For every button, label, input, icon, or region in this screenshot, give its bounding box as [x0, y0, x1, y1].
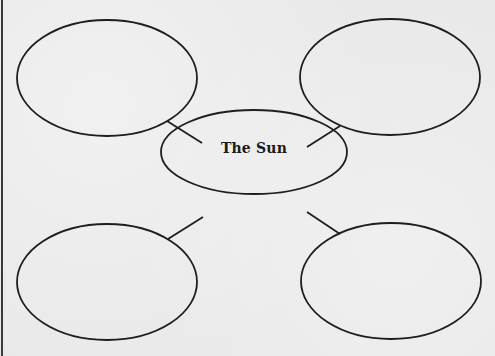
node-top-left-answer[interactable] — [37, 38, 177, 118]
node-top-right-answer[interactable] — [320, 37, 460, 117]
center-node-label: The Sun — [161, 140, 347, 156]
connector-bottom-right — [307, 212, 340, 234]
worksheet-page: The Sun — [0, 0, 495, 356]
node-bottom-right-answer[interactable] — [321, 241, 461, 321]
connector-bottom-left — [168, 217, 203, 239]
node-bottom-left-answer[interactable] — [37, 242, 177, 322]
